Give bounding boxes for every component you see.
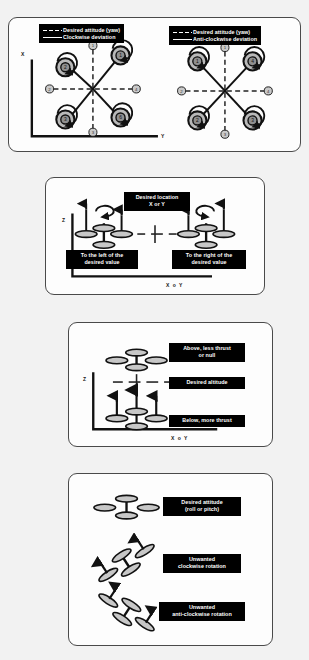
label-desired-altitude: Desired altitude [169,377,245,389]
legend-row-deviation: Anti-clockwise deviation [172,36,257,43]
solid-line-swatch-icon [172,36,193,43]
svg-text:1: 1 [196,59,199,64]
svg-text:3: 3 [251,118,254,123]
drone-level-attitude [94,495,159,519]
axis-label-x: X [21,51,24,57]
label-below-more-thrust: Below, more thrust [169,415,245,427]
legend-row-desired: Desired attitude (yaw) [172,29,257,36]
hexacopter-clockwise: 1 3 2 4 1 2 [32,40,158,136]
solid-line-swatch-icon [42,34,63,41]
axis-label-y: Y [161,133,164,139]
legend-clockwise: Desired attitude (yaw) Clockwise deviati… [39,24,124,43]
axis-label-xy: X o Y [166,282,183,288]
axis-label-z: Z [83,376,86,382]
svg-text:2: 2 [64,65,67,70]
label-desired-location: Desired location X or Y [124,192,190,211]
panel-horizontal-position: Desired location X or Y To the left of t… [45,177,265,295]
panel-roll-pitch-attitude: Desired attitude (roll or pitch) Unwante… [68,473,273,646]
panel-yaw-deviation: 1 3 2 4 1 2 [8,17,301,152]
label-right-of-desired: To the right of the desired value [172,250,246,269]
svg-text:1: 1 [119,53,122,58]
legend-label-deviation: Anti-clockwise deviation [193,36,257,42]
legend-row-desired: Desired attitude (yaw) [42,27,120,34]
legend-label-desired: Desired attitude (yaw) [193,29,250,35]
label-above-less-thrust: Above, less thrust or null [169,343,245,362]
drone-anticlockwise-rotation [93,581,162,639]
svg-text:3: 3 [64,117,67,122]
panel-altitude: Above, less thrust or null Desired altit… [68,322,273,447]
svg-text:2: 2 [196,118,199,123]
legend-anticlockwise: Desired attitude (yaw) Anti-clockwise de… [169,26,261,45]
dashed-line-swatch-icon [172,29,193,36]
legend-label-desired: Desired attitude (yaw) [63,27,120,33]
svg-text:4: 4 [251,59,254,64]
label-desired-attitude: Desired attitude (roll or pitch) [163,497,241,516]
legend-label-deviation: Clockwise deviation [63,34,115,40]
drone-clockwise-rotation [91,532,160,590]
axis-label-xy: X o Y [171,435,188,441]
legend-row-deviation: Clockwise deviation [42,34,120,41]
axis-label-z: Z [62,217,65,223]
drone-below-target [106,390,167,430]
dashed-line-swatch-icon [42,27,63,34]
label-unwanted-anticlockwise: Unwanted anti-clockwise rotation [159,602,245,621]
hexacopter-anticlockwise: 1 3 2 4 1 4 [178,44,273,139]
svg-text:6: 6 [119,115,122,120]
label-unwanted-clockwise: Unwanted clockwise rotation [163,554,241,573]
label-left-of-desired: To the left of the desired value [66,250,138,269]
drone-above-target [106,349,167,370]
